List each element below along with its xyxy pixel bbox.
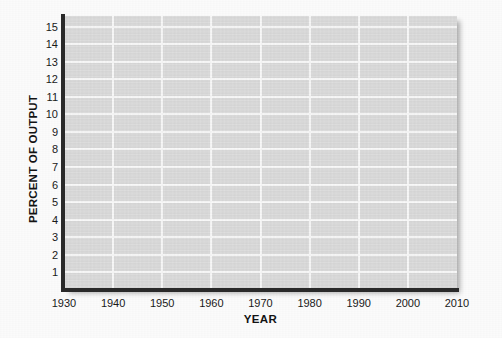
x-axis-line (61, 288, 459, 292)
gridline-vertical (210, 16, 212, 290)
gridline-vertical (260, 16, 262, 290)
y-axis-line (61, 14, 65, 292)
y-tick-label: 1 (14, 267, 58, 278)
gridline-vertical (358, 16, 360, 290)
x-axis-title: YEAR (64, 313, 457, 325)
gridline-vertical (112, 16, 114, 290)
chart-figure: 123456789101112131415 193019401950196019… (0, 0, 502, 338)
gridline-vertical (309, 16, 311, 290)
gridline-vertical (407, 16, 409, 290)
y-tick-label: 14 (14, 39, 58, 50)
y-tick-label: 13 (14, 56, 58, 67)
gridline-vertical (161, 16, 163, 290)
y-tick-label: 2 (14, 249, 58, 260)
y-tick-label: 15 (14, 21, 58, 32)
x-tick-label: 2010 (427, 298, 487, 309)
y-axis-title: PERCENT OF OUTPUT (27, 69, 39, 249)
vertical-gridlines (64, 16, 457, 290)
plot-area (64, 16, 457, 290)
